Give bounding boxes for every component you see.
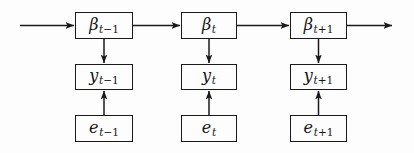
- e-t-plus-1-label: et+1: [304, 120, 334, 137]
- y-t-minus-1-node: yt−1: [75, 64, 133, 90]
- e-t-label: et: [202, 120, 216, 137]
- e-t-plus-1-node: et+1: [290, 115, 347, 142]
- beta-t-minus-1-label: βt−1: [89, 17, 119, 34]
- e-t-minus-1-label: et−1: [89, 120, 119, 137]
- beta-t-node: βt: [181, 12, 237, 39]
- e-t-minus-1-node: et−1: [75, 115, 133, 142]
- y-t-minus-1-label: yt−1: [89, 68, 118, 85]
- beta-t-label: βt: [202, 17, 216, 34]
- e-t-node: et: [181, 115, 237, 142]
- beta-t-plus-1-label: βt+1: [304, 17, 334, 34]
- y-t-plus-1-node: yt+1: [290, 64, 347, 90]
- y-t-label: yt: [202, 68, 216, 85]
- state-space-diagram: βt−1 βt βt+1 yt−1 yt yt+1 et−1 et: [0, 0, 414, 153]
- y-t-plus-1-label: yt+1: [304, 68, 333, 85]
- beta-t-minus-1-node: βt−1: [75, 12, 133, 39]
- beta-t-plus-1-node: βt+1: [290, 12, 347, 39]
- y-t-node: yt: [181, 64, 237, 90]
